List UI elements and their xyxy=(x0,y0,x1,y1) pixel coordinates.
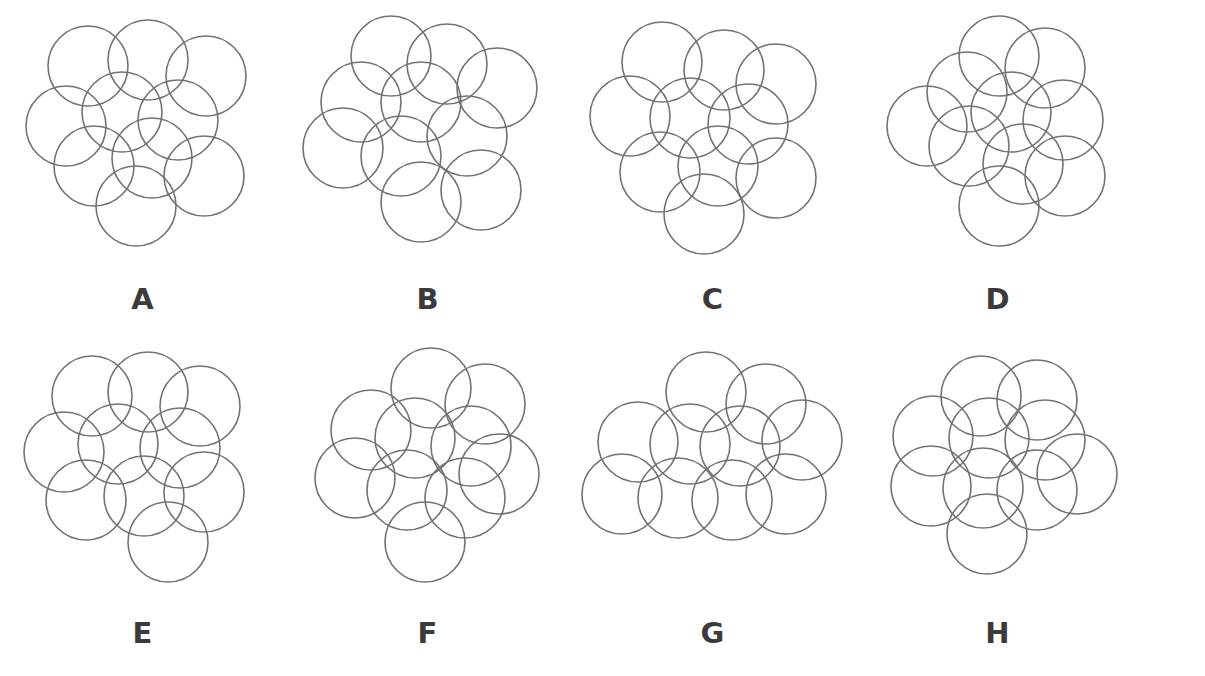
cluster-circle xyxy=(166,36,246,116)
cluster-circle xyxy=(445,364,525,444)
panel-g: G xyxy=(570,338,855,676)
cluster-circle xyxy=(140,408,220,488)
panel-f: F xyxy=(285,338,570,676)
cluster-circle xyxy=(441,150,521,230)
panel-a: A xyxy=(0,0,285,338)
cluster-circle xyxy=(381,162,461,242)
cluster-circle xyxy=(46,460,126,540)
circle-cluster-h-svg xyxy=(855,338,1140,623)
cluster-circle xyxy=(726,364,806,444)
cluster-circle xyxy=(138,80,218,160)
cluster-circle xyxy=(692,460,772,540)
cluster-circle xyxy=(385,502,465,582)
cluster-circle xyxy=(303,108,383,188)
cluster-circle xyxy=(1023,80,1103,160)
cluster-circle xyxy=(82,72,162,152)
cluster-circle xyxy=(427,96,507,176)
cluster-circle xyxy=(112,118,192,198)
figure-root: A B C D E xyxy=(0,0,1205,676)
cluster-circle xyxy=(108,352,188,432)
circle-cluster-d-svg xyxy=(855,0,1140,285)
cluster-circle xyxy=(762,400,842,480)
circle-cluster-c-svg xyxy=(570,0,855,285)
cluster-circle xyxy=(361,116,441,196)
cluster-circle xyxy=(48,26,128,106)
cluster-circle xyxy=(959,16,1039,96)
circle-cluster-e xyxy=(0,338,285,623)
panel-label-b: B xyxy=(285,282,570,316)
panel-label-g: G xyxy=(570,616,855,650)
cluster-circle xyxy=(367,450,447,530)
circle-cluster-b-svg xyxy=(285,0,570,285)
cluster-circle xyxy=(128,502,208,582)
cluster-circle xyxy=(351,16,431,96)
cluster-circle xyxy=(983,124,1063,204)
cluster-circle xyxy=(381,62,461,142)
cluster-circle xyxy=(893,396,973,476)
cluster-circle xyxy=(96,166,176,246)
cluster-circle xyxy=(78,404,158,484)
cluster-circle xyxy=(1005,28,1085,108)
circle-cluster-f xyxy=(285,338,570,623)
cluster-circle xyxy=(971,72,1051,152)
cluster-circle xyxy=(678,126,758,206)
circle-cluster-f-svg xyxy=(285,338,570,623)
cluster-circle xyxy=(407,24,487,104)
cluster-circle xyxy=(1025,136,1105,216)
cluster-circle xyxy=(929,106,1009,186)
cluster-circle xyxy=(425,458,505,538)
panel-label-e: E xyxy=(0,616,285,650)
cluster-circle xyxy=(590,76,670,156)
cluster-circle xyxy=(997,450,1077,530)
cluster-circle xyxy=(582,454,662,534)
panel-row-top: A B C D xyxy=(0,0,1205,338)
cluster-circle xyxy=(315,438,395,518)
cluster-circle xyxy=(160,366,240,446)
circle-cluster-b xyxy=(285,0,570,285)
panel-label-h: H xyxy=(855,616,1140,650)
cluster-circle xyxy=(108,20,188,100)
cluster-circle xyxy=(1037,434,1117,514)
circle-cluster-c xyxy=(570,0,855,285)
panel-label-a: A xyxy=(0,282,285,316)
cluster-circle xyxy=(736,138,816,218)
cluster-circle xyxy=(947,494,1027,574)
cluster-circle xyxy=(598,402,678,482)
circle-cluster-g-svg xyxy=(570,338,855,623)
panel-h: H xyxy=(855,338,1140,676)
circle-cluster-a xyxy=(0,0,285,285)
cluster-circle xyxy=(666,352,746,432)
circle-cluster-a-svg xyxy=(0,0,285,285)
circle-cluster-d xyxy=(855,0,1140,285)
cluster-circle xyxy=(164,452,244,532)
cluster-circle xyxy=(375,398,455,478)
panel-row-bottom: E F G H xyxy=(0,338,1205,676)
panel-b: B xyxy=(285,0,570,338)
cluster-circle xyxy=(746,454,826,534)
panel-c: C xyxy=(570,0,855,338)
circle-cluster-e-svg xyxy=(0,338,285,623)
cluster-circle xyxy=(664,174,744,254)
cluster-circle xyxy=(891,446,971,526)
panel-label-d: D xyxy=(855,282,1140,316)
cluster-circle xyxy=(959,166,1039,246)
panel-d: D xyxy=(855,0,1140,338)
cluster-circle xyxy=(391,348,471,428)
cluster-circle xyxy=(321,62,401,142)
cluster-circle xyxy=(650,404,730,484)
panel-label-c: C xyxy=(570,282,855,316)
circle-cluster-h xyxy=(855,338,1140,623)
circle-cluster-g xyxy=(570,338,855,623)
panel-label-f: F xyxy=(285,616,570,650)
panel-e: E xyxy=(0,338,285,676)
cluster-circle xyxy=(457,48,537,128)
